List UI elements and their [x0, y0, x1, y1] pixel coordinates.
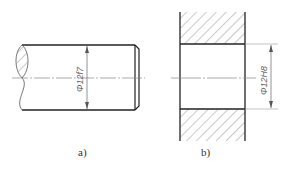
shaft-dimension-text: Φ12f7	[75, 66, 85, 92]
arrow-down-icon	[85, 102, 89, 109]
engineering-drawing: Φ12f7 a) Φ12H8 b)	[0, 0, 289, 171]
arrow-down-icon	[269, 101, 273, 108]
hole-bottom-hatch	[180, 109, 245, 141]
label-b: b)	[201, 146, 211, 159]
hole-dimension-text: Φ12H8	[259, 66, 269, 95]
arrow-up-icon	[269, 45, 273, 52]
shaft-chamfer-end	[135, 45, 139, 110]
hole-top-hatch	[180, 12, 245, 44]
shaft-drawing: Φ12f7 a)	[10, 40, 145, 159]
hole-drawing: Φ12H8 b)	[171, 12, 278, 159]
arrow-up-icon	[85, 46, 89, 53]
label-a: a)	[78, 146, 87, 159]
